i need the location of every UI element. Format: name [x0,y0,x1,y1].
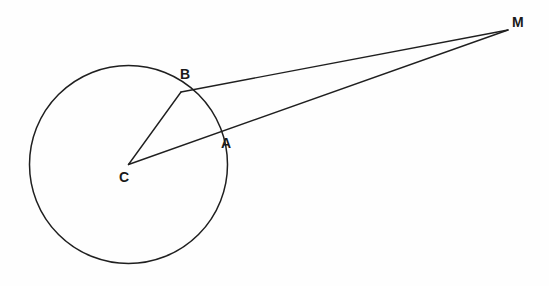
label-point-b: B [180,67,190,81]
label-point-m: M [512,15,524,29]
label-point-c: C [119,170,129,184]
geometry-canvas [0,0,549,286]
label-point-a: A [221,136,231,150]
geometry-diagram: B A C M [0,0,549,286]
segment-center-to-b [129,92,182,165]
segment-b-to-m [181,30,508,92]
segment-center-to-m [129,30,509,165]
